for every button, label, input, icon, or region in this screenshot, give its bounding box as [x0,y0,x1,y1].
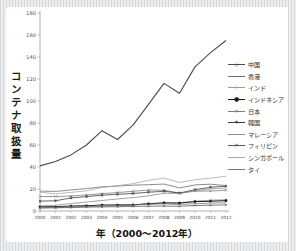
legend-label: 香港 [248,72,260,81]
x-tick-label: 2001 [50,215,61,220]
chart-legend: ◇中国香港+インド●インドネシア×日本∗韓国マレーシア×フィリピンシンガポールタ… [228,59,288,175]
legend-label: タイ [248,165,260,174]
x-tick-label: 2000 [35,215,46,220]
y-tick-label: 80 [29,120,36,126]
y-tick-label: 180 [26,10,36,16]
y-tick-label: 0 [33,208,36,214]
y-tick-label: 100 [26,98,36,104]
y-tick-label: 160 [26,32,36,38]
chart-panel: 0204060801001201401601802000200120022003… [6,7,288,242]
legend-item-8: シンガポール [228,152,288,164]
legend-line-marker-icon: + [228,84,245,91]
y-tick-label: 60 [29,142,36,148]
x-axis-label: 年（2000〜2012年） [6,226,288,240]
y-tick-label: 40 [29,164,36,170]
x-tick-label: 2003 [81,215,92,220]
legend-label: マレーシア [248,130,278,139]
y-tick-label: 20 [29,186,36,192]
x-tick-label: 2012 [221,215,232,220]
series-5 [39,185,227,203]
x-tick-label: 2006 [128,215,139,220]
legend-item-7: ×フィリピン [228,140,288,152]
legend-item-6: マレーシア [228,129,288,141]
legend-item-0: ◇中国 [228,59,288,71]
x-tick-label: 2008 [159,215,170,220]
legend-label: フィリピン [248,141,278,150]
legend-label: 韓国 [248,118,260,127]
x-ticks: 2000200120022003200420052006200720082009… [35,211,232,220]
legend-line-marker-icon: ● [228,96,245,103]
x-tick-label: 2005 [112,215,123,220]
legend-item-1: 香港 [228,71,288,83]
x-tick-label: 2004 [97,215,108,220]
x-tick-label: 2009 [174,215,185,220]
legend-line-marker-icon [228,154,245,161]
legend-label: インド [248,83,266,92]
legend-label: インドネシア [248,95,284,104]
legend-item-5: ∗韓国 [228,117,288,129]
x-tick-label: 2007 [143,215,154,220]
legend-label: 中国 [248,60,260,69]
y-ticks: 020406080100120140160180 [26,10,40,214]
legend-item-2: +インド [228,82,288,94]
axes [40,11,229,211]
y-axis-label: コンテナ取扱量 [10,71,21,162]
legend-item-4: ×日本 [228,105,288,117]
y-tick-label: 120 [26,76,36,82]
legend-line-marker-icon: × [228,142,245,149]
legend-line-marker-icon [228,73,245,80]
legend-line-marker-icon: ◇ [228,61,245,68]
legend-line-marker-icon: ∗ [228,119,245,126]
scanned-chart-page: 0204060801001201401601802000200120022003… [0,0,296,251]
legend-item-9: タイ [228,163,288,175]
legend-label: シンガポール [248,153,284,162]
legend-line-marker-icon: × [228,108,245,115]
series-line-0 [40,41,226,166]
series-0 [40,41,226,166]
x-tick-label: 2011 [205,215,216,220]
legend-line-marker-icon [228,166,245,173]
x-tick-label: 2010 [190,215,201,220]
legend-line-marker-icon [228,131,245,138]
y-tick-label: 140 [26,54,36,60]
legend-item-3: ●インドネシア [228,94,288,106]
x-tick-label: 2002 [66,215,77,220]
legend-label: 日本 [248,107,260,116]
